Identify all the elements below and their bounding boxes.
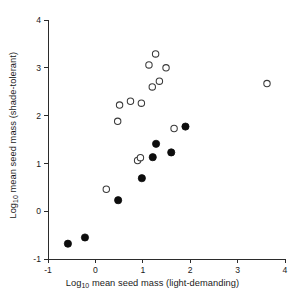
data-point-open bbox=[152, 51, 158, 57]
x-tick-label: 1 bbox=[140, 265, 145, 275]
data-point-open bbox=[127, 98, 133, 104]
data-point-filled bbox=[152, 140, 159, 147]
x-axis-label: Log10 mean seed mass (light-demanding) bbox=[0, 278, 305, 289]
y-tick-label: 3 bbox=[36, 63, 41, 73]
x-tick-label: 3 bbox=[235, 265, 240, 275]
data-point-open bbox=[163, 65, 169, 71]
data-point-filled bbox=[81, 234, 88, 241]
data-points-group bbox=[64, 51, 270, 248]
data-point-open bbox=[116, 102, 122, 108]
data-point-filled bbox=[138, 175, 145, 182]
data-point-filled bbox=[64, 240, 71, 247]
x-tick-label: 4 bbox=[283, 265, 288, 275]
data-point-open bbox=[137, 154, 143, 160]
data-point-filled bbox=[168, 149, 175, 156]
y-tick-label: 0 bbox=[36, 206, 41, 216]
x-tick-label: -1 bbox=[44, 265, 52, 275]
data-point-open bbox=[146, 62, 152, 68]
x-tick-label: 0 bbox=[93, 265, 98, 275]
data-point-open bbox=[114, 118, 120, 124]
axes-group: -101234-101234 bbox=[33, 15, 287, 275]
data-point-open bbox=[156, 78, 162, 84]
data-point-filled bbox=[149, 154, 156, 161]
data-point-open bbox=[171, 125, 177, 131]
data-point-open bbox=[138, 100, 144, 106]
y-tick-label: 1 bbox=[36, 159, 41, 169]
x-tick-label: 2 bbox=[188, 265, 193, 275]
x-axis-label-rest: mean seed mass (light-demanding) bbox=[89, 278, 239, 288]
y-tick-label: -1 bbox=[33, 254, 41, 264]
scatter-plot-figure: -101234-101234 Log10 mean seed mass (sha… bbox=[0, 0, 305, 303]
plot-canvas: -101234-101234 bbox=[0, 0, 305, 303]
data-point-open bbox=[103, 186, 109, 192]
data-point-open bbox=[264, 80, 270, 86]
data-point-filled bbox=[115, 197, 122, 204]
y-tick-label: 2 bbox=[36, 111, 41, 121]
data-point-open bbox=[149, 84, 155, 90]
y-tick-label: 4 bbox=[36, 15, 41, 25]
data-point-filled bbox=[182, 123, 189, 130]
x-axis-label-prefix: Log bbox=[66, 278, 82, 288]
